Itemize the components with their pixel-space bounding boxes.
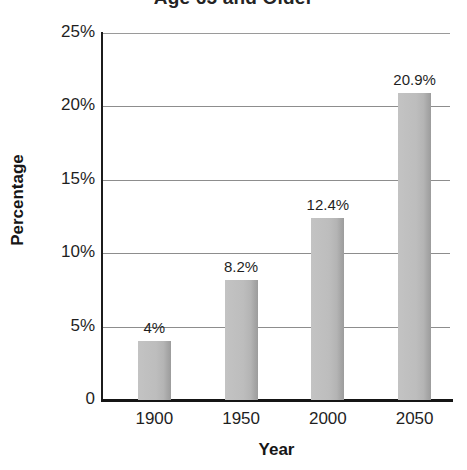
y-axis-tick-label: 5% — [70, 316, 95, 336]
y-axis-tick-label: 25% — [61, 22, 95, 42]
x-axis-tick-label: 2000 — [288, 409, 368, 429]
x-axis-tick-label: 1950 — [201, 409, 281, 429]
y-axis-tick-label: 20% — [61, 95, 95, 115]
bar-value-label: 20.9% — [375, 71, 455, 88]
bar-chart-figure: Age 65 and Older 25%20%15%10%5%0 Percent… — [0, 0, 467, 470]
bar-value-label: 12.4% — [288, 196, 368, 213]
bar-value-label: 8.2% — [201, 258, 281, 275]
gridline — [103, 33, 450, 34]
x-axis-tick-label: 2050 — [375, 409, 455, 429]
bar — [138, 341, 171, 400]
y-axis-tick-label: 10% — [61, 242, 95, 262]
y-axis-tick-label: 0 — [86, 389, 95, 409]
y-axis-title: Percentage — [8, 120, 28, 280]
x-axis-title: Year — [103, 440, 450, 460]
x-axis-tick-label: 1900 — [114, 409, 194, 429]
y-axis-tick-label: 15% — [61, 169, 95, 189]
bar — [311, 218, 344, 400]
bar-value-label: 4% — [114, 319, 194, 336]
bar — [225, 280, 258, 400]
bar — [398, 93, 431, 400]
